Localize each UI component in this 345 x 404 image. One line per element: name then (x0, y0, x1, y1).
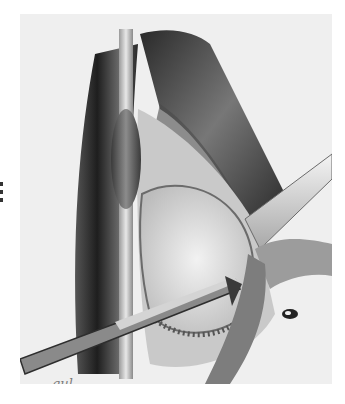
margin-mark (0, 190, 3, 194)
margin-marks (0, 182, 4, 204)
artist-signature: gul (52, 376, 73, 384)
surgical-illustration (20, 14, 332, 384)
margin-mark (0, 182, 3, 186)
illustration-frame: gul (20, 14, 332, 384)
margin-mark (0, 198, 3, 202)
